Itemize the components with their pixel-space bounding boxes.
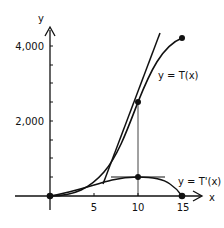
point-Tprime-x10 <box>135 174 141 180</box>
y-axis-label: y <box>38 13 44 24</box>
point-origin <box>47 193 54 200</box>
curve-Tprime-label: y = T'(x) <box>178 176 221 187</box>
point-T-x10 <box>135 99 141 105</box>
x-tick-15: 15 <box>177 202 190 213</box>
curve-T <box>50 38 182 196</box>
x-tick-5: 5 <box>91 202 97 213</box>
x-axis-label: x <box>209 192 215 203</box>
curve-T-label: y = T(x) <box>158 70 199 81</box>
point-Tprime-x15 <box>179 193 186 200</box>
point-T-x15 <box>179 35 185 41</box>
y-tick-4000: 4,000 <box>15 41 44 52</box>
y-axis <box>45 27 55 210</box>
x-tick-10: 10 <box>132 202 145 213</box>
y-tick-2000: 2,000 <box>15 116 44 127</box>
x-axis <box>15 191 202 201</box>
chart: y x 4,000 2,000 5 10 15 y = T(x) y = T'(… <box>0 0 224 228</box>
tangent-T-x10 <box>103 33 160 184</box>
